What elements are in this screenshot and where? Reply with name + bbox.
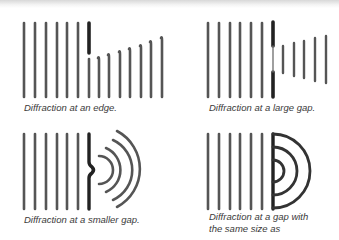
diffracted-wavefronts	[99, 131, 140, 207]
diffracted-wavefronts	[273, 134, 310, 208]
caption-line-2: the same size as	[209, 223, 308, 235]
caption-edge: Diffraction at an edge.	[24, 102, 117, 114]
incoming-wavefronts	[24, 23, 78, 97]
incoming-wavefronts	[208, 134, 262, 209]
panel-large-gap	[208, 22, 326, 97]
small-gap-barrier	[89, 134, 94, 209]
incoming-wavefronts	[24, 134, 78, 209]
diffracted-wavefronts	[89, 37, 162, 97]
panel-smaller-gap	[24, 131, 140, 209]
caption-same-size-gap: Diffraction at a gap with the same size …	[209, 211, 308, 235]
diffraction-diagram	[0, 0, 339, 240]
caption-large-gap: Diffraction at a large gap.	[209, 102, 315, 114]
caption-line-1: Diffraction at a gap with	[209, 211, 308, 223]
incoming-wavefronts	[208, 23, 262, 97]
panel-same-size-gap	[208, 134, 310, 209]
diffracted-wavefronts	[283, 36, 326, 83]
panel-edge	[24, 23, 162, 97]
caption-smaller-gap: Diffraction at a smaller gap.	[24, 214, 140, 226]
